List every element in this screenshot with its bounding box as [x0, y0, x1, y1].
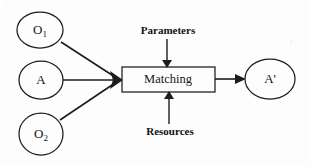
diagram-canvas: O1 A O2 Matching Par — [0, 0, 310, 166]
annotation-resources: Resources — [146, 91, 194, 137]
node-output: A' — [245, 59, 295, 99]
process-label: Matching — [144, 72, 193, 86]
block-diagram: O1 A O2 Matching Par — [0, 0, 310, 166]
input-2-label: A — [36, 72, 46, 87]
arrowhead-right-icon-output — [235, 74, 246, 84]
node-process: Matching — [122, 67, 215, 92]
resources-label: Resources — [146, 125, 194, 137]
output-label: A' — [264, 71, 276, 86]
annotation-parameters: Parameters — [141, 24, 196, 68]
node-input-3: O2 — [19, 113, 63, 155]
edge-input-1-to-process — [61, 42, 115, 77]
parameters-label: Parameters — [141, 24, 196, 36]
node-input-1: O1 — [17, 12, 63, 48]
node-input-2: A — [19, 61, 63, 99]
edge-input-3-to-process — [60, 83, 115, 120]
